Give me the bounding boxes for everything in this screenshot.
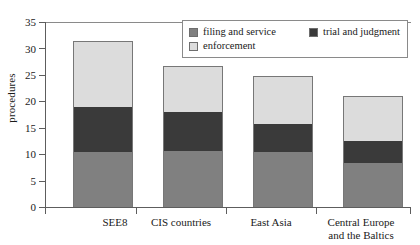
bar-segment-filing-cis[interactable] [163,151,223,207]
bar-segment-filing-east-asia[interactable] [253,152,313,207]
bar-segment-filing-see8[interactable] [73,152,133,207]
y-tick-label-25: 25 [14,70,36,81]
x-tick-mark-1 [136,208,137,214]
x-axis-line [45,207,411,208]
legend-item-trial-and-judgment[interactable]: trial and judgment [309,26,400,38]
bar-segment-enforcement-east-asia[interactable] [253,76,313,124]
y-tick-label-15: 15 [14,123,36,134]
legend-label-enforcement: enforcement [203,40,255,52]
y-tick-label-35: 35 [14,17,36,28]
bar-segment-trial-cis[interactable] [163,112,223,151]
x-tick-mark-4 [410,208,411,214]
x-tick-mark-0 [45,208,46,214]
x-axis-label-line-1: Central Europe [304,216,418,229]
bar-segment-enforcement-see8[interactable] [73,41,133,107]
x-tick-mark-2 [226,208,227,214]
chart-legend: filing and service trial and judgment en… [182,20,408,58]
y-tick-label-0: 0 [14,202,36,213]
bar-segment-trial-see8[interactable] [73,107,133,153]
bar-segment-filing-central-europe[interactable] [343,163,403,207]
bar-central-europe-baltics[interactable] [343,96,403,207]
x-axis-label-central-europe-baltics: Central Europe and the Baltics [304,216,418,242]
bar-segment-trial-east-asia[interactable] [253,124,313,152]
bar-east-asia[interactable] [253,76,313,207]
legend-row-2: enforcement [189,39,401,53]
x-axis-label-line-2: and the Baltics [304,229,418,242]
y-tick-label-30: 30 [14,44,36,55]
legend-item-filing-and-service[interactable]: filing and service [189,26,309,38]
legend-label-trial-and-judgment: trial and judgment [323,26,400,38]
y-tick-label-20: 20 [14,96,36,107]
legend-swatch-trial-and-judgment [309,28,318,37]
bar-see8[interactable] [73,41,133,207]
y-tick-label-5: 5 [14,176,36,187]
y-tick-label-10: 10 [14,149,36,160]
bar-segment-trial-central-europe[interactable] [343,141,403,163]
legend-swatch-filing-and-service [189,28,198,37]
x-tick-mark-3 [316,208,317,214]
legend-label-filing-and-service: filing and service [203,26,276,38]
legend-swatch-enforcement [189,42,198,51]
bar-segment-enforcement-central-europe[interactable] [343,96,403,141]
legend-row-1: filing and service trial and judgment [189,25,401,39]
bar-segment-enforcement-cis[interactable] [163,66,223,112]
legend-item-enforcement[interactable]: enforcement [189,40,309,52]
chart-container: procedures 35 30 25 20 15 10 5 0 [0,0,420,245]
bar-cis-countries[interactable] [163,66,223,207]
